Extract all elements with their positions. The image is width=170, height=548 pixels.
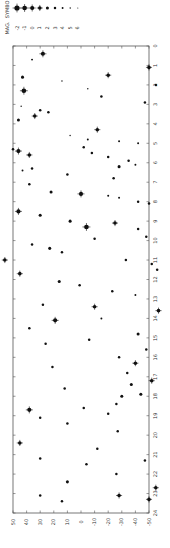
ra-tick-label: 19 [152, 413, 158, 419]
legend-mag-value: 6 [74, 26, 80, 29]
ra-tick-label: 18 [152, 393, 158, 399]
star-marker [62, 7, 64, 9]
star-marker [130, 383, 133, 386]
star-marker [145, 235, 148, 238]
star-marker [69, 7, 70, 8]
star-marker [139, 393, 142, 396]
star-marker [144, 101, 147, 104]
star-marker [153, 485, 159, 491]
dec-tick-label: -50 [146, 518, 152, 526]
star-marker [50, 190, 53, 193]
data-points [2, 50, 162, 502]
legend-mag-value: 2 [44, 26, 50, 29]
ra-tick-label: 12 [152, 276, 158, 282]
star-marker [51, 366, 54, 369]
star-marker [112, 220, 118, 226]
star-marker [150, 263, 153, 266]
star-marker [44, 342, 47, 345]
star-marker [118, 197, 120, 199]
star-marker [17, 271, 23, 277]
star-marker [107, 195, 109, 197]
star-marker [126, 372, 128, 375]
star-marker [145, 348, 148, 351]
star-marker [54, 7, 57, 10]
star-marker [77, 8, 78, 9]
dec-tick-label: -30 [118, 518, 124, 526]
star-marker [66, 422, 69, 425]
star-marker [93, 237, 96, 240]
star-marker [39, 109, 42, 112]
ra-tick-label: 14 [152, 315, 158, 321]
star-marker [137, 228, 140, 231]
star-marker [12, 148, 15, 151]
star-marker [107, 413, 110, 416]
star-marker [61, 251, 64, 254]
star-marker [29, 4, 36, 11]
ra-tick-label: 21 [152, 451, 158, 457]
star-marker [31, 243, 34, 246]
ra-tick-label: 10 [152, 237, 158, 243]
star-marker [13, 4, 22, 13]
star-marker [116, 492, 122, 498]
ra-tick-label: 7 [152, 181, 158, 184]
star-marker [127, 160, 130, 163]
star-marker [116, 430, 119, 433]
star-marker [155, 84, 158, 87]
star-marker [137, 332, 140, 335]
star-marker [137, 142, 139, 144]
star-marker [134, 294, 136, 296]
star-marker [100, 95, 103, 98]
ra-tick-label: 4 [152, 122, 158, 125]
ra-tick-label: 16 [152, 354, 158, 360]
star-marker [85, 463, 88, 466]
star-marker [82, 407, 85, 410]
legend-mag-value: 1 [36, 26, 42, 29]
star-marker [39, 50, 46, 57]
star-marker [78, 284, 81, 287]
star-marker [96, 448, 99, 451]
dec-tick-label: 20 [50, 519, 56, 525]
legend-mag-value: 0 [29, 26, 35, 29]
legend-mag-header: MAG. [4, 21, 10, 35]
star-marker [94, 127, 100, 133]
star-marker [87, 88, 88, 89]
star-chart: SYMBOLMAG.-2-10123456 012345678910111213… [0, 0, 170, 548]
legend-mag-value: 4 [59, 26, 65, 29]
ra-tick-label: 0 [152, 44, 158, 47]
star-marker [31, 167, 34, 170]
star-marker [88, 339, 91, 342]
star-marker [63, 387, 66, 390]
star-marker [77, 190, 84, 197]
ra-tick-label: 9 [152, 220, 158, 223]
star-marker [61, 80, 62, 81]
star-marker [115, 403, 118, 406]
star-marker [111, 290, 114, 293]
ra-tick-label: 24 [152, 510, 158, 516]
star-marker [15, 208, 22, 215]
star-marker [26, 152, 32, 158]
star-marker [37, 5, 43, 11]
star-marker [105, 72, 111, 78]
star-marker [20, 87, 28, 95]
star-marker [118, 140, 120, 142]
star-marker [20, 106, 21, 107]
star-marker [42, 304, 45, 307]
dec-tick-label: 40 [23, 519, 29, 525]
ra-tick-label: 6 [152, 161, 158, 164]
star-marker [2, 257, 8, 263]
ra-tick-label: 15 [152, 335, 158, 341]
dec-tick-label: -40 [132, 518, 138, 526]
star-marker [48, 247, 51, 250]
star-marker [69, 135, 70, 136]
star-marker [144, 459, 147, 462]
legend-mag-value: 3 [52, 26, 58, 29]
star-marker [21, 76, 24, 79]
ra-tick-label: 13 [152, 296, 158, 302]
axis-ticks: 0123456789101112131415161718192021222324… [10, 44, 159, 526]
ra-tick-label: 1 [152, 64, 158, 67]
dec-tick-label: 30 [37, 519, 43, 525]
star-marker [125, 259, 128, 262]
star-marker [58, 280, 61, 283]
star-marker [118, 165, 121, 168]
star-marker [115, 473, 118, 476]
